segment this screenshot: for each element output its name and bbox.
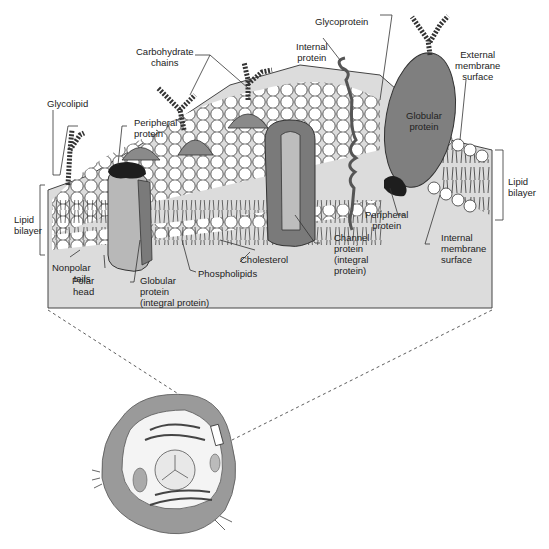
animal-cell-icon — [92, 394, 236, 533]
label-channel-protein: Channel protein (integral protein) — [334, 232, 369, 276]
label-glycolipid: Glycolipid — [47, 98, 88, 109]
zoom-lines — [48, 310, 492, 445]
label-cholesterol: Cholesterol — [240, 254, 288, 265]
label-lipid-bilayer-left: Lipid bilayer — [14, 214, 42, 236]
label-lipid-bilayer-right: Lipid bilayer — [508, 176, 536, 198]
label-polar-head: Polar head — [72, 275, 94, 297]
label-phospholipids: Phospholipids — [198, 268, 257, 279]
glycoprotein-chain — [412, 16, 448, 55]
label-globular-protein-right: Globular protein — [406, 110, 442, 132]
label-peripheral-protein-bottom: Peripheral protein — [365, 209, 408, 231]
label-internal-protein: Internal protein — [296, 41, 328, 63]
label-glycoprotein: Glycoprotein — [315, 16, 368, 27]
label-globular-protein-integral: Globular protein (integral protein) — [140, 275, 209, 308]
label-external-membrane-surface: External membrane surface — [455, 49, 500, 82]
label-peripheral-protein-top: Peripheral protein — [134, 117, 177, 139]
label-carbohydrate-chains: Carbohydrate chains — [136, 46, 194, 68]
label-internal-membrane-surface: Internal membrane surface — [441, 232, 486, 265]
channel-protein — [265, 120, 315, 246]
